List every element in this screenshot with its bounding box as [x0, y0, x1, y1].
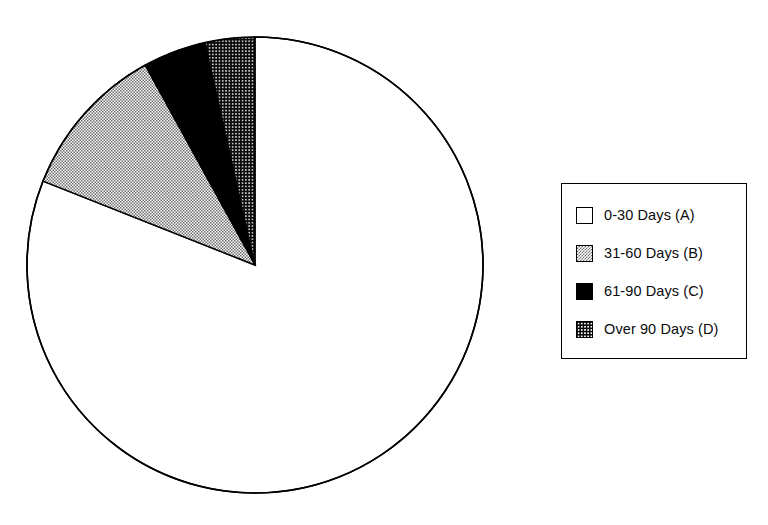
legend-item-c[interactable]: 61-90 Days (C) [562, 272, 746, 310]
gray-checker-swatch-icon [576, 245, 593, 262]
pie-chart [0, 0, 520, 525]
legend-item-a[interactable]: 0-30 Days (A) [562, 196, 746, 234]
legend-item-label: 61-90 Days (C) [604, 284, 704, 299]
white-swatch-icon [576, 207, 593, 224]
legend-item-label: 31-60 Days (B) [604, 246, 703, 261]
legend-item-b[interactable]: 31-60 Days (B) [562, 234, 746, 272]
pie-chart-svg [0, 0, 520, 525]
solid-black-swatch-icon [576, 283, 593, 300]
legend-item-d[interactable]: Over 90 Days (D) [562, 310, 746, 348]
legend-item-label: Over 90 Days (D) [604, 322, 718, 337]
legend-item-label: 0-30 Days (A) [604, 208, 695, 223]
legend-box: 0-30 Days (A) 31-60 Days (B) 61-90 Days … [561, 183, 747, 359]
chart-canvas: 0-30 Days (A) 31-60 Days (B) 61-90 Days … [0, 0, 768, 525]
black-dotted-swatch-icon [576, 321, 593, 338]
